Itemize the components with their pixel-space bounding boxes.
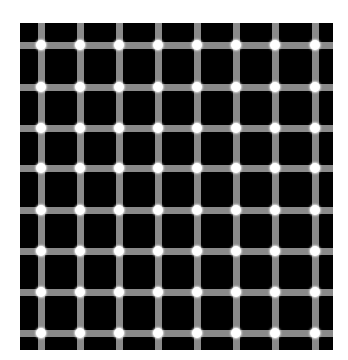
grid-intersection-dot [36, 82, 46, 92]
grid-intersection-dot [310, 123, 320, 133]
grid-intersection-dot [36, 205, 46, 215]
scintillating-grid [20, 23, 333, 350]
grid-intersection-dot [231, 123, 241, 133]
grid-intersection-dot [36, 287, 46, 297]
grid-intersection-dot [153, 82, 163, 92]
grid-intersection-dot [192, 40, 202, 50]
grid-intersection-dot [192, 287, 202, 297]
grid-intersection-dot [270, 287, 280, 297]
grid-intersection-dot [231, 246, 241, 256]
grid-intersection-dot [36, 40, 46, 50]
grid-intersection-dot [310, 246, 320, 256]
grid-horizontal-line [20, 84, 333, 91]
grid-intersection-dot [36, 163, 46, 173]
grid-horizontal-line [20, 207, 333, 214]
grid-intersection-dot [192, 246, 202, 256]
grid-intersection-dot [75, 123, 85, 133]
grid-intersection-dot [75, 205, 85, 215]
grid-intersection-dot [75, 40, 85, 50]
grid-intersection-dot [114, 163, 124, 173]
grid-intersection-dot [310, 40, 320, 50]
grid-intersection-dot [270, 246, 280, 256]
grid-intersection-dot [114, 328, 124, 338]
grid-horizontal-line [20, 165, 333, 172]
grid-intersection-dot [153, 205, 163, 215]
grid-intersection-dot [114, 123, 124, 133]
grid-intersection-dot [231, 163, 241, 173]
grid-horizontal-line [20, 289, 333, 296]
grid-intersection-dot [310, 328, 320, 338]
grid-intersection-dot [75, 246, 85, 256]
grid-intersection-dot [114, 82, 124, 92]
grid-horizontal-line [20, 125, 333, 132]
grid-intersection-dot [192, 163, 202, 173]
grid-intersection-dot [231, 205, 241, 215]
grid-intersection-dot [231, 40, 241, 50]
grid-intersection-dot [231, 328, 241, 338]
grid-intersection-dot [192, 205, 202, 215]
grid-vertical-line [194, 23, 201, 350]
grid-intersection-dot [75, 163, 85, 173]
grid-intersection-dot [192, 123, 202, 133]
grid-intersection-dot [114, 205, 124, 215]
grid-intersection-dot [153, 40, 163, 50]
grid-intersection-dot [36, 328, 46, 338]
grid-intersection-dot [270, 82, 280, 92]
grid-intersection-dot [270, 205, 280, 215]
grid-vertical-line [312, 23, 319, 350]
grid-intersection-dot [36, 246, 46, 256]
grid-intersection-dot [270, 163, 280, 173]
grid-intersection-dot [310, 82, 320, 92]
grid-vertical-line [272, 23, 279, 350]
grid-intersection-dot [310, 205, 320, 215]
grid-intersection-dot [270, 328, 280, 338]
grid-vertical-line [77, 23, 84, 350]
grid-horizontal-line [20, 42, 333, 49]
grid-intersection-dot [153, 328, 163, 338]
grid-intersection-dot [270, 40, 280, 50]
grid-vertical-line [233, 23, 240, 350]
grid-intersection-dot [114, 246, 124, 256]
grid-intersection-dot [310, 287, 320, 297]
grid-intersection-dot [75, 328, 85, 338]
grid-horizontal-line [20, 330, 333, 337]
grid-intersection-dot [153, 287, 163, 297]
grid-vertical-line [38, 23, 45, 350]
grid-intersection-dot [192, 82, 202, 92]
grid-intersection-dot [114, 287, 124, 297]
grid-intersection-dot [310, 163, 320, 173]
grid-intersection-dot [231, 82, 241, 92]
grid-intersection-dot [36, 123, 46, 133]
grid-intersection-dot [231, 287, 241, 297]
grid-vertical-line [155, 23, 162, 350]
grid-intersection-dot [75, 82, 85, 92]
grid-horizontal-line [20, 248, 333, 255]
grid-intersection-dot [153, 246, 163, 256]
grid-intersection-dot [153, 123, 163, 133]
grid-intersection-dot [192, 328, 202, 338]
grid-vertical-line [116, 23, 123, 350]
grid-intersection-dot [114, 40, 124, 50]
grid-intersection-dot [75, 287, 85, 297]
grid-intersection-dot [153, 163, 163, 173]
grid-intersection-dot [270, 123, 280, 133]
